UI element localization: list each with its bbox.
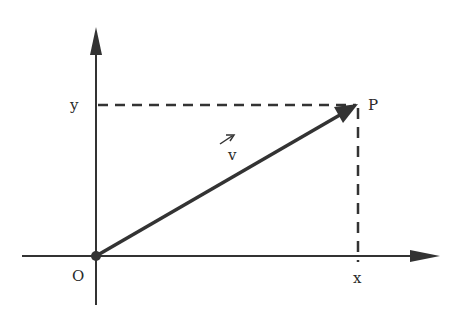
vector-arrowhead-icon (334, 104, 358, 123)
label-origin: O (72, 267, 84, 285)
vector-notation-arrow-icon (220, 135, 234, 144)
origin-point (91, 251, 101, 261)
x-axis-arrowhead-icon (410, 250, 440, 262)
label-vector-v: v (227, 146, 237, 164)
vector-v (96, 104, 358, 256)
label-point-p: P (368, 96, 378, 114)
label-y: y (69, 96, 79, 114)
label-x: x (353, 269, 362, 287)
y-axis (90, 27, 102, 305)
y-axis-arrowhead-icon (90, 27, 102, 55)
vector-diagram: y P v O x (0, 0, 459, 331)
x-axis (22, 250, 440, 262)
